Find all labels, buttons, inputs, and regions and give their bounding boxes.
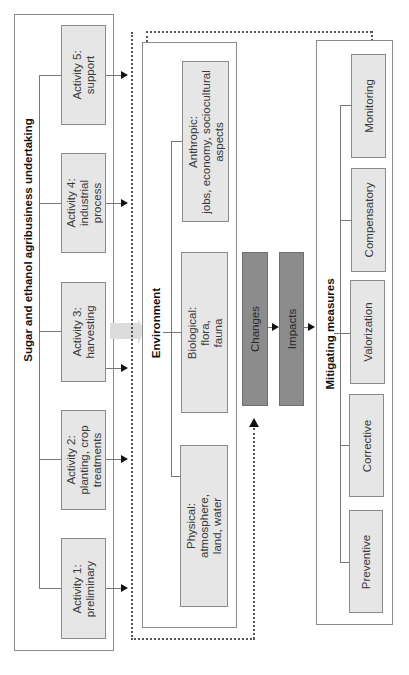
activity-2-box: Activity 2: planting, crop treatments [61, 410, 106, 510]
environment-branch [163, 332, 181, 333]
impacts-label: Impacts [285, 309, 298, 349]
activity-5-output-line [106, 75, 121, 76]
feedback-dotted-line [131, 32, 133, 640]
biological-label: Biological: flora, fauna [185, 306, 224, 358]
undertaking-to-environment-arrow [110, 323, 138, 339]
arrow-right-icon [121, 364, 128, 372]
activity-4-output-line [106, 203, 121, 204]
activity-4-box: Activity 4: industrial process [61, 153, 106, 253]
arrow-right-icon [272, 323, 279, 331]
anthropic-box: Anthropic: jobs, economy, sociocultural … [182, 61, 229, 222]
activity-3-label: Activity 3: harvesting [71, 305, 97, 358]
preventive-box: Preventive [349, 510, 383, 613]
arrow-right-icon [121, 71, 128, 79]
corrective-box: Corrective [349, 394, 384, 497]
biological-box: Biological: flora, fauna [181, 252, 228, 413]
arrow-right-icon [121, 584, 128, 592]
mitigating-branch [340, 220, 351, 221]
undertaking-title: Sugar and ethanol agribusiness undertaki… [22, 118, 34, 361]
activity-1-output-line [106, 588, 121, 589]
activity-3-box: Activity 3: harvesting [61, 282, 106, 382]
activity-branch [39, 75, 61, 76]
environment-branch [171, 141, 182, 142]
mitigating-title: Mitigating measures [324, 278, 336, 389]
activity-connector-spine [39, 75, 40, 589]
mitigating-branch [334, 333, 351, 334]
corrective-label: Corrective [360, 419, 373, 471]
valorization-box: Valorization [350, 280, 385, 384]
activity-2-output-line [106, 459, 121, 460]
activity-branch [39, 331, 61, 332]
activity-branch [39, 588, 61, 589]
arrow-right-icon [121, 199, 128, 207]
activity-5-label: Activity 5: support [71, 50, 97, 99]
activity-1-box: Activity 1: preliminary [61, 538, 106, 639]
changes-box: Changes [242, 252, 268, 406]
changes-label: Changes [249, 306, 262, 352]
activity-2-label: Activity 2: planting, crop treatments [64, 425, 103, 494]
activity-5-box: Activity 5: support [61, 25, 106, 125]
monitoring-label: Monitoring [362, 79, 375, 133]
arrow-right-icon [121, 455, 128, 463]
activity-1-label: Activity 1: preliminary [71, 560, 97, 616]
monitoring-feedback-dotted-line [146, 31, 372, 33]
preventive-label: Preventive [360, 534, 373, 588]
environment-connector-spine [171, 141, 172, 477]
activity-3-output-line [106, 368, 121, 369]
impacts-box: Impacts [279, 252, 304, 406]
valorization-label: Valorization [361, 302, 374, 361]
compensatory-label: Compensatory [362, 183, 375, 258]
feedback-dotted-line [253, 428, 255, 639]
mitigating-branch [340, 105, 351, 106]
physical-label: Physical: atmosphere, land, water [185, 494, 224, 558]
compensatory-box: Compensatory [351, 168, 386, 272]
feedback-dotted-line [131, 638, 255, 640]
activity-branch [39, 203, 61, 204]
arrow-right-icon [308, 323, 315, 331]
environment-title: Environment [150, 288, 162, 358]
monitoring-box: Monitoring [351, 54, 386, 158]
activity-4-label: Activity 4: industrial process [64, 178, 103, 227]
anthropic-label: Anthropic: jobs, economy, sociocultural … [186, 70, 225, 214]
arrow-up-icon [249, 418, 259, 427]
mitigating-connector-spine [340, 105, 341, 563]
physical-box: Physical: atmosphere, land, water [180, 445, 228, 607]
activity-branch [39, 459, 61, 460]
